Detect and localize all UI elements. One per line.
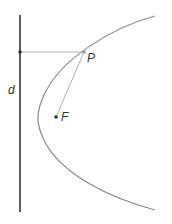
label-d: d xyxy=(8,83,15,97)
label-p: P xyxy=(87,51,95,65)
focus-point xyxy=(54,115,58,119)
point-p xyxy=(82,50,86,54)
parabola-curve xyxy=(38,16,155,210)
label-f: F xyxy=(61,110,69,124)
foot-point xyxy=(18,50,22,54)
parabola-diagram: P F d xyxy=(0,0,172,224)
